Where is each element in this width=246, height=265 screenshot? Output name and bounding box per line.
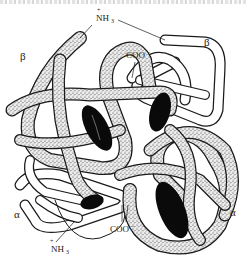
label-alpha-right: α [230,206,236,218]
svg-text:3: 3 [111,18,114,24]
label-nh3-top: + NH 3 [96,7,114,24]
svg-text:NH: NH [51,244,64,254]
label-alpha-left: α [14,208,20,220]
label-coo-bottom: COO − [110,223,135,234]
label-nh3-bottom: + NH 3 [50,238,69,255]
leader-nh3-top-right [118,20,165,40]
hemoglobin-diagram: β β α α + NH 3 COO − COO − + NH 3 [0,0,246,265]
svg-text:3: 3 [66,249,69,255]
svg-text:NH: NH [96,13,109,23]
label-beta-left: β [20,50,26,62]
label-beta-right: β [204,36,210,48]
svg-text:COO: COO [110,224,130,234]
svg-text:COO: COO [126,50,146,60]
